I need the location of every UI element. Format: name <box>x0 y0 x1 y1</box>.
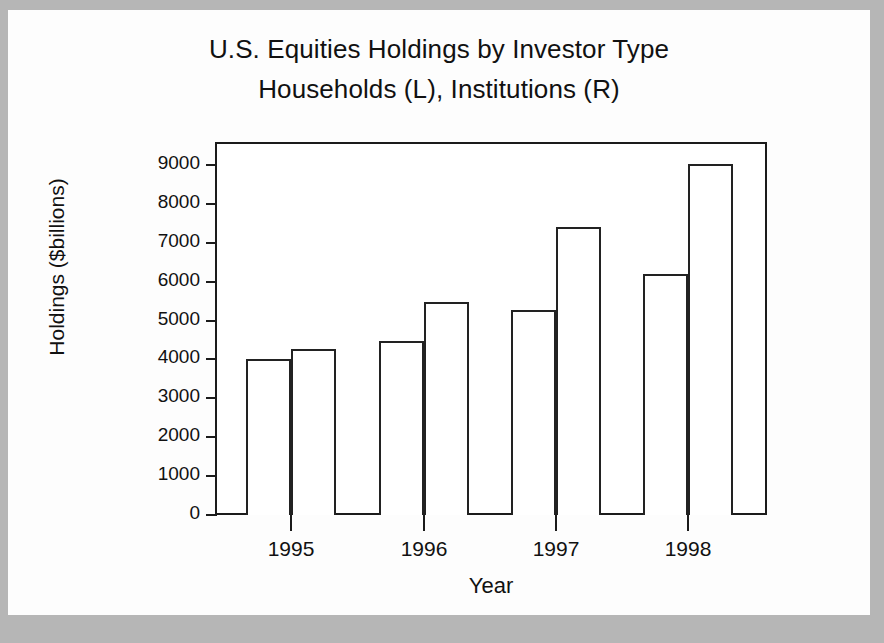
y-tick-label: 6000 <box>130 269 200 291</box>
plot-area <box>215 142 767 515</box>
y-tick-label: 1000 <box>130 463 200 485</box>
y-tick-label: 4000 <box>130 346 200 368</box>
bar-chart-figure: U.S. Equities Holdings by Investor Type … <box>8 10 870 615</box>
y-tick-label: 0 <box>130 502 200 524</box>
x-axis-title: Year <box>215 573 767 599</box>
bar <box>379 341 424 515</box>
bar <box>291 349 336 515</box>
x-tick-label: 1998 <box>628 537 748 561</box>
y-tick-label: 7000 <box>130 230 200 252</box>
bar <box>556 227 601 515</box>
y-tick-label: 5000 <box>130 308 200 330</box>
x-tick-mark <box>687 515 689 531</box>
x-tick-label: 1996 <box>364 537 484 561</box>
y-tick-label: 8000 <box>130 191 200 213</box>
y-tick-label: 2000 <box>130 424 200 446</box>
x-tick-mark <box>555 515 557 531</box>
y-tick-label: 3000 <box>130 385 200 407</box>
x-tick-mark <box>290 515 292 531</box>
chart-title-line-2: Households (L), Institutions (R) <box>8 74 870 105</box>
x-tick-mark <box>423 515 425 531</box>
chart-title-line-1: U.S. Equities Holdings by Investor Type <box>8 34 870 65</box>
page-sheet: U.S. Equities Holdings by Investor Type … <box>8 10 870 615</box>
bar <box>424 302 469 515</box>
bar <box>511 310 556 515</box>
x-tick-label: 1997 <box>496 537 616 561</box>
x-tick-label: 1995 <box>231 537 351 561</box>
scanned-page-background: U.S. Equities Holdings by Investor Type … <box>0 0 884 643</box>
bar <box>246 359 291 515</box>
y-axis-title: Holdings ($billions) <box>45 117 69 417</box>
bar <box>688 164 733 515</box>
y-tick-label: 9000 <box>130 152 200 174</box>
bar <box>643 274 688 515</box>
